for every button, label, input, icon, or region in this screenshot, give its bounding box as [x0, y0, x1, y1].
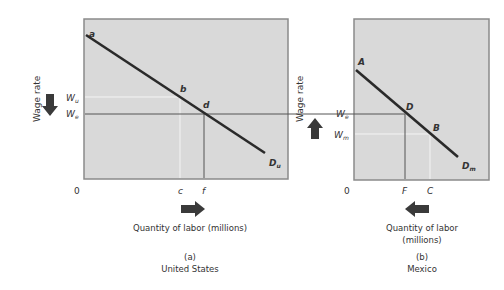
C-tick-label: C — [427, 186, 434, 196]
arrow-left-icon — [405, 201, 429, 217]
mexico-x-axis-label-line2: (millions) — [362, 234, 482, 246]
mexico-origin-label: 0 — [344, 186, 350, 196]
F-tick-label: F — [402, 186, 408, 196]
mexico-panel-title: Mexico — [362, 263, 482, 275]
panel-us-plot-area — [84, 19, 288, 179]
point-D-label: D — [406, 102, 414, 112]
arrow-down-icon — [42, 94, 58, 116]
us-panel-letter: (a) — [145, 251, 235, 263]
panel-mexico-plot-area — [354, 19, 489, 180]
point-A-label: A — [357, 57, 365, 67]
us-x-axis-label: Quantity of labor (millions) — [110, 222, 270, 234]
mexico-panel-letter: (b) — [362, 251, 482, 263]
mexico-y-axis-label: Wage rate — [295, 75, 305, 122]
us-panel-title: United States — [130, 263, 250, 275]
us-y-axis-label: Wage rate — [32, 75, 42, 122]
we-tick-label-mexico: We — [336, 109, 349, 120]
wm-tick-label: Wm — [334, 130, 349, 141]
wu-tick-label: Wu — [66, 93, 79, 104]
f-tick-label: f — [202, 186, 207, 196]
point-d-label: d — [203, 100, 210, 110]
us-origin-label: 0 — [74, 186, 80, 196]
we-tick-label-us: We — [66, 109, 79, 120]
point-b-label: b — [180, 84, 187, 94]
arrow-right-icon — [181, 201, 205, 217]
arrow-up-icon — [307, 118, 323, 139]
c-tick-label: c — [178, 186, 183, 196]
point-B-label: B — [433, 123, 440, 133]
migration-diagram: a b d Du Wu We Wage rate 0 c f A D B Dm … — [0, 0, 504, 290]
point-a-label: a — [89, 29, 95, 39]
mexico-x-axis-label-line1: Quantity of labor — [362, 222, 482, 234]
